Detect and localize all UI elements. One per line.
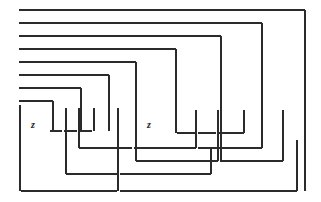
figure-root: zz	[0, 0, 321, 202]
label-z-right: z	[146, 119, 151, 130]
label-group: zz	[30, 119, 151, 130]
line-figure-svg: zz	[0, 0, 321, 202]
vertical-segments-group	[20, 10, 305, 191]
label-z-left: z	[30, 119, 35, 130]
